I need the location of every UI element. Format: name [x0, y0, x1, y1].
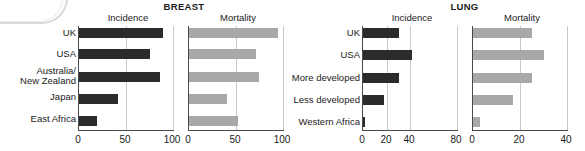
gridline: [173, 26, 174, 130]
bar: [79, 116, 97, 126]
bar: [473, 117, 480, 127]
bar: [79, 28, 163, 38]
xtick: 40: [403, 134, 414, 145]
xtick: 40: [560, 134, 571, 145]
bar: [473, 95, 513, 105]
plot-area-breast-mortality: [188, 26, 284, 131]
category-label: Japan: [0, 92, 76, 102]
xtick: 0: [469, 134, 475, 145]
category-label: East Africa: [0, 114, 76, 124]
bar: [189, 94, 227, 104]
gridline: [457, 26, 458, 130]
category-label: UK: [284, 28, 360, 38]
plot-area-breast-incidence: [78, 26, 174, 131]
xtick: 100: [274, 134, 291, 145]
group-title-breast: BREAST: [78, 1, 290, 12]
category-label: USA: [0, 49, 76, 59]
xtick: 50: [119, 134, 130, 145]
bar: [189, 28, 278, 38]
bar: [189, 72, 259, 82]
bar: [79, 94, 118, 104]
xtick: 100: [164, 134, 181, 145]
category-label: Australia/ New Zealand: [0, 66, 76, 86]
panel-title-incidence: Incidence: [78, 12, 178, 23]
bar: [189, 49, 256, 59]
bar: [363, 95, 384, 105]
bar: [473, 73, 532, 83]
panel-title-mortality: Mortality: [188, 12, 288, 23]
bar: [473, 50, 544, 60]
category-labels-breast: UK USA Australia/ New Zealand Japan East…: [0, 26, 76, 130]
category-label: Less developed: [284, 95, 360, 105]
bar: [363, 73, 399, 83]
chart-group-breast: BREAST UK USA Australia/ New Zealand Jap…: [0, 0, 292, 151]
bar: [79, 49, 150, 59]
category-label: More developed: [284, 73, 360, 83]
bar: [189, 116, 238, 126]
bar: [363, 28, 399, 38]
xtick: 0: [359, 134, 365, 145]
category-label: USA: [284, 50, 360, 60]
bar: [79, 72, 160, 82]
bar: [473, 28, 532, 38]
xtick: 0: [185, 134, 191, 145]
panel-title-incidence: Incidence: [362, 12, 462, 23]
plot-area-lung-mortality: [472, 26, 568, 131]
bar: [363, 117, 365, 127]
xtick: 20: [513, 134, 524, 145]
xtick: 50: [229, 134, 240, 145]
plot-area-lung-incidence: [362, 26, 458, 131]
gridline: [410, 26, 411, 130]
xtick: 80: [450, 134, 461, 145]
category-label: Western Africa: [284, 117, 360, 127]
chart-figure: BREAST UK USA Australia/ New Zealand Jap…: [0, 0, 585, 151]
group-title-lung: LUNG: [362, 1, 567, 12]
category-label: UK: [0, 28, 76, 38]
bar: [363, 50, 412, 60]
category-labels-lung: UK USA More developed Less developed Wes…: [284, 26, 360, 130]
chart-group-lung: LUNG UK USA More developed Less develope…: [292, 0, 585, 151]
xtick: 20: [380, 134, 391, 145]
panel-title-mortality: Mortality: [472, 12, 572, 23]
xtick: 0: [75, 134, 81, 145]
gridline: [567, 26, 568, 130]
